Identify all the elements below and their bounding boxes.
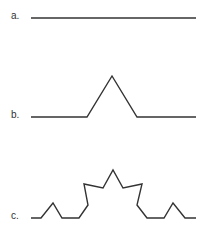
koch-iteration-2-line <box>31 170 196 218</box>
koch-iteration-1-line <box>31 76 196 117</box>
koch-curves <box>0 0 209 230</box>
